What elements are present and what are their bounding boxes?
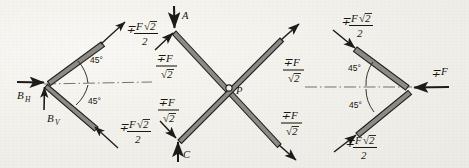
right-lower-force-label: ∓ F √ 2 2 (345, 134, 377, 161)
numerator-force: F (350, 12, 358, 24)
denominator: 2 (357, 27, 363, 39)
right-lower-angle-label: 45° (349, 100, 362, 110)
right-lower-member (356, 91, 412, 138)
point-p-marker (226, 85, 232, 91)
point-p-label: P (235, 85, 243, 96)
left-lower-force-label: ∓ F √ 2 2 (119, 118, 151, 145)
sign-glyph: ∓ (281, 109, 291, 121)
left-centerline (44, 82, 152, 84)
numerator-force: F (165, 52, 173, 64)
right-upper-angle-label: 45° (348, 63, 361, 73)
sign-glyph: ∓ (283, 56, 293, 68)
bh-base: B (17, 89, 24, 101)
bv-base: B (47, 112, 54, 124)
left-bh-arrow (17, 82, 44, 83)
middle-force-lower-right-label: ∓ F √ 2 (281, 109, 302, 137)
denominator: 2 (142, 35, 148, 47)
denominator: 2 (135, 133, 141, 145)
right-upper-force-arrow (333, 30, 355, 48)
sign-glyph: ∓ (431, 67, 441, 79)
panel-middle: A C P ∓ F √ 2 ∓ F √ 2 ∓ F √ 2 (155, 6, 304, 162)
left-bv-arrow (44, 87, 45, 110)
right-applied-force-arrow (414, 87, 449, 88)
sign-glyph: ∓ (158, 96, 168, 108)
middle-force-upper-right-label: ∓ F √ 2 (283, 56, 304, 84)
left-lower-force-arrow (95, 127, 118, 148)
right-upper-member (354, 47, 410, 90)
numerator-force: F (135, 20, 143, 32)
numerator-force: F (292, 56, 300, 68)
bv-subscript: V (55, 118, 61, 127)
middle-force-a-arrow (174, 6, 175, 28)
left-lower-member (45, 85, 99, 132)
left-lower-angle-arc (76, 85, 88, 105)
point-a-label: A (181, 10, 189, 21)
panel-right: 45° 45° ∓ F √ 2 2 ∓ F √ 2 2 ∓ F (305, 12, 449, 161)
point-c-label: C (183, 149, 191, 160)
left-lower-angle-label: 45° (88, 96, 101, 106)
middle-force-upper-right-arrow (281, 24, 299, 40)
numerator-force: F (290, 109, 298, 121)
middle-force-lower-right-arrow (279, 145, 296, 160)
numerator-force: F (167, 96, 175, 108)
panel-left: 45° 45° ∓ F √ 2 2 ∓ F √ 2 2 B H (17, 20, 158, 148)
numerator-force: F (354, 134, 362, 146)
middle-force-upper-left-label: ∓ F √ 2 (156, 52, 177, 80)
left-bh-label: B H (17, 89, 31, 104)
right-upper-force-label: ∓ F √ 2 2 (341, 12, 373, 39)
bh-subscript: H (24, 95, 31, 104)
numerator-force: F (128, 118, 136, 130)
right-applied-force-label: ∓ F (431, 65, 448, 79)
left-bv-label: B V (47, 112, 61, 127)
middle-force-lower-left-label: ∓ F √ 2 (158, 96, 179, 124)
left-upper-force-arrow (101, 22, 125, 44)
right-lower-angle-arc (366, 89, 374, 112)
sign-glyph: ∓ (156, 52, 166, 64)
force-glyph: F (440, 65, 448, 77)
left-upper-angle-label: 45° (90, 55, 103, 65)
figure-canvas: 45° 45° ∓ F √ 2 2 ∓ F √ 2 2 B H (0, 0, 469, 168)
middle-force-upper-left-arrow (155, 33, 173, 50)
left-upper-force-label: ∓ F √ 2 2 (126, 20, 158, 47)
denominator: 2 (361, 149, 367, 161)
